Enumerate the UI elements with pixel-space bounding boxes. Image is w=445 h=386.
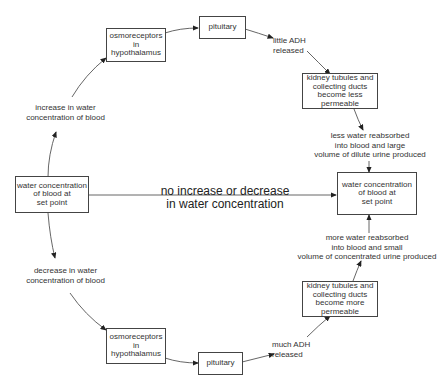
- arrow-pituitary-to-adh-bottom: [242, 354, 274, 362]
- arrow-decrease-to-osmo: [70, 293, 106, 330]
- arrow-adh-to-kidney-bottom: [307, 316, 330, 337]
- pituitary-bottom-box: pituitary: [198, 352, 243, 375]
- arrow-setpoint-to-decrease: [48, 213, 55, 258]
- arrow-setpoint-to-increase: [48, 132, 56, 177]
- arrow-increase-to-osmo: [72, 58, 106, 97]
- center-label: no increase or decrease in water concent…: [160, 185, 290, 211]
- right-setpoint-box: water concentration of blood at set poin…: [337, 172, 417, 215]
- increase-label: increase in water concentration of blood: [18, 103, 113, 122]
- arrow-osmo-to-pituitary: [165, 28, 198, 33]
- osmoreceptors-bottom-box: osmoreceptors in hypothalamus: [106, 328, 166, 364]
- little-adh-label: little ADH released: [273, 36, 318, 55]
- osmoreceptors-top-box: osmoreceptors in hypothalamus: [106, 28, 166, 62]
- less-water-label: less water reabsorbed into blood and lar…: [305, 131, 435, 160]
- arrow-pituitary-to-adh: [245, 29, 273, 38]
- kidney-less-permeable-box: kidney tubules and collecting ducts beco…: [302, 73, 378, 109]
- more-water-label: more water reabsorbed into blood and sma…: [292, 233, 442, 262]
- kidney-more-permeable-box: kidney tubules and collecting ducts beco…: [302, 281, 378, 317]
- pituitary-top-box: pituitary: [199, 16, 246, 39]
- decrease-label: decrease in water concentration of blood: [18, 266, 113, 285]
- much-adh-label: much ADH released: [272, 340, 317, 359]
- arrow-kidney-to-outcome: [354, 109, 363, 130]
- arrow-osmo-to-pituitary-bottom: [165, 358, 198, 363]
- left-setpoint-box: water concentration of blood at set poin…: [15, 176, 89, 213]
- arrow-kidney-to-outcome-bottom: [353, 261, 361, 281]
